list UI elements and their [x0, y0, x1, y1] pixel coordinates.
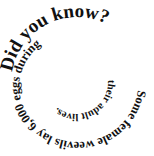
fact-textpath-outer: Some female weevils lay 6,000 eggs durin… [8, 36, 149, 153]
fact-text-outer: Some female weevils lay 6,000 eggs durin… [8, 36, 149, 153]
spiral-svg: Did you know? Some female weevils lay 6,… [0, 0, 154, 156]
fact-textpath-inner: their adult lives. [52, 80, 117, 123]
spiral-text-graphic: Did you know? Some female weevils lay 6,… [0, 0, 154, 156]
fact-text-inner: their adult lives. [52, 80, 117, 123]
